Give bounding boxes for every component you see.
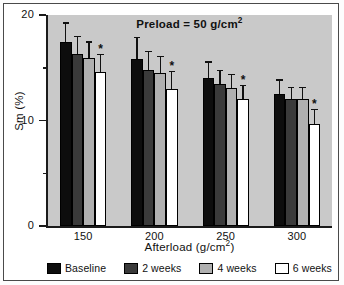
legend-swatch-wk4-icon: [199, 263, 213, 274]
error-cap-baseline-150: [63, 22, 70, 23]
y-tick-major: [39, 14, 46, 16]
y-axis-label: Sm (%): [13, 81, 25, 141]
legend-swatch-wk6-icon: [275, 263, 289, 274]
error-cap-wk4-150: [86, 41, 93, 42]
bar-wk6-200: [166, 89, 178, 226]
y-tick-label: 20: [8, 8, 34, 20]
error-bar-wk2-300: [291, 87, 292, 100]
x-axis-line: [46, 226, 332, 228]
error-bar-wk4-300: [302, 87, 303, 100]
y-tick-label: 0: [8, 219, 34, 231]
y-tick-major: [39, 225, 46, 227]
bar-wk6-250: [237, 99, 249, 226]
bar-wk4-200: [154, 73, 166, 226]
error-bar-wk2-150: [77, 36, 78, 54]
significance-marker-wk6-250: *: [237, 74, 249, 86]
error-bar-wk6-250: [242, 85, 243, 100]
legend-label: Baseline: [65, 262, 106, 274]
error-bar-wk2-250: [219, 70, 220, 84]
y-tick-major: [39, 120, 46, 122]
legend-label: 6 weeks: [293, 262, 332, 274]
legend-item-baseline[interactable]: Baseline: [47, 262, 106, 274]
significance-marker-wk6-300: *: [308, 98, 320, 110]
figure-container: Preload = 50 g/cm2 20100 *150*200*250*30…: [0, 0, 344, 285]
error-bar-wk4-150: [88, 41, 89, 58]
bar-wk2-250: [214, 84, 226, 226]
bar-wk4-150: [83, 58, 95, 226]
legend-swatch-baseline-icon: [47, 263, 61, 274]
error-cap-wk4-300: [299, 87, 306, 88]
y-tick-minor: [43, 67, 47, 69]
legend-item-wk4[interactable]: 4 weeks: [199, 262, 256, 274]
chart-title: Preload = 50 g/cm2: [47, 18, 332, 30]
legend-item-wk6[interactable]: 6 weeks: [275, 262, 332, 274]
y-axis-line: [46, 15, 48, 227]
error-bar-baseline-250: [208, 61, 209, 78]
error-bar-wk6-300: [314, 109, 315, 124]
error-cap-baseline-200: [134, 37, 141, 38]
bar-baseline-150: [60, 42, 72, 226]
error-bar-wk4-200: [160, 56, 161, 73]
error-bar-wk2-200: [148, 51, 149, 70]
error-bar-baseline-300: [279, 79, 280, 94]
bar-baseline-300: [274, 94, 286, 226]
x-axis-label-close: ): [230, 241, 234, 253]
legend-label: 4 weeks: [217, 262, 256, 274]
bar-wk2-200: [143, 70, 155, 226]
bar-wk2-300: [285, 99, 297, 226]
error-cap-wk2-150: [74, 36, 81, 37]
significance-marker-wk6-200: *: [166, 60, 178, 72]
error-cap-wk4-200: [157, 56, 164, 57]
error-bar-baseline-200: [136, 37, 137, 59]
error-bar-wk4-250: [231, 74, 232, 88]
error-bar-wk6-200: [171, 71, 172, 89]
bar-wk2-150: [72, 54, 84, 226]
significance-marker-wk6-150: *: [95, 43, 107, 55]
chart-title-superscript: 2: [238, 16, 243, 25]
error-bar-wk6-150: [100, 54, 101, 72]
error-cap-wk2-200: [145, 51, 152, 52]
chart-legend: Baseline2 weeks4 weeks6 weeks: [47, 260, 332, 276]
error-cap-baseline-250: [205, 61, 212, 62]
legend-item-wk2[interactable]: 2 weeks: [124, 262, 181, 274]
chart-title-text: Preload = 50 g/cm: [136, 18, 238, 30]
bar-wk4-300: [297, 99, 309, 226]
bar-wk4-250: [226, 88, 238, 226]
y-tick-minor: [43, 173, 47, 175]
bar-wk6-300: [309, 124, 321, 226]
x-axis-label-text: Afterload (g/cm: [145, 241, 226, 253]
error-cap-wk2-250: [217, 70, 224, 71]
error-bar-baseline-150: [65, 22, 66, 42]
bar-wk6-150: [95, 72, 107, 226]
error-cap-wk4-250: [228, 74, 235, 75]
error-cap-wk2-300: [288, 87, 295, 88]
bar-baseline-250: [203, 78, 215, 226]
legend-label: 2 weeks: [142, 262, 181, 274]
x-axis-label: Afterload (g/cm2): [47, 241, 332, 253]
legend-swatch-wk2-icon: [124, 263, 138, 274]
error-cap-baseline-300: [276, 79, 283, 80]
bar-baseline-200: [131, 59, 143, 226]
